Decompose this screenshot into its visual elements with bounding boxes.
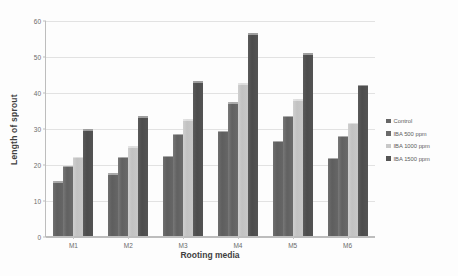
x-axis-tick-label: M4 xyxy=(233,242,242,249)
bar[interactable] xyxy=(108,173,118,236)
bar[interactable] xyxy=(273,141,283,236)
bar-group-m5: M5 xyxy=(273,21,313,236)
bar[interactable] xyxy=(128,146,138,236)
legend-item[interactable]: IBA 1000 ppm xyxy=(386,143,430,149)
bar[interactable] xyxy=(138,116,148,236)
legend-swatch-icon xyxy=(386,144,391,149)
bar[interactable] xyxy=(248,33,258,236)
legend-item[interactable]: IBA 500 ppm xyxy=(386,131,430,137)
legend-item[interactable]: Control xyxy=(386,118,430,124)
bar-group-m4: M4 xyxy=(218,21,258,236)
bar-group-m3: M3 xyxy=(163,21,203,236)
bar[interactable] xyxy=(358,85,368,236)
bar[interactable] xyxy=(173,134,183,236)
bar[interactable] xyxy=(328,158,338,236)
legend-swatch-icon xyxy=(386,119,391,124)
legend-swatch-icon xyxy=(386,131,391,136)
x-axis-tick-label: M5 xyxy=(288,242,297,249)
bar[interactable] xyxy=(118,157,128,236)
x-axis-tick-label: M6 xyxy=(343,242,352,249)
x-axis-tick-mark xyxy=(348,236,349,239)
gridline xyxy=(46,237,375,238)
bar[interactable] xyxy=(218,131,228,236)
bar[interactable] xyxy=(63,166,73,236)
chart-legend: ControlIBA 500 ppmIBA 1000 ppmIBA 1500 p… xyxy=(386,118,430,162)
x-axis-tick-label: M2 xyxy=(124,242,133,249)
legend-item[interactable]: IBA 1500 ppm xyxy=(386,156,430,162)
bar-group-m6: M6 xyxy=(328,21,368,236)
legend-swatch-icon xyxy=(386,156,391,161)
bar[interactable] xyxy=(228,102,238,236)
legend-label: IBA 1500 ppm xyxy=(394,156,430,162)
x-axis-title: Rooting media xyxy=(45,250,375,260)
bar[interactable] xyxy=(53,181,63,236)
bar-chart: Length of sprout 0102030405060 M1M2M3M4M… xyxy=(0,0,458,276)
bar-group-m2: M2 xyxy=(108,21,148,236)
x-axis-tick-mark xyxy=(128,236,129,239)
bar[interactable] xyxy=(338,136,348,236)
bar[interactable] xyxy=(348,123,358,236)
legend-label: IBA 500 ppm xyxy=(394,131,427,137)
x-axis-tick-mark xyxy=(293,236,294,239)
bar-group-m1: M1 xyxy=(53,21,93,236)
x-axis-tick-mark xyxy=(73,236,74,239)
bar[interactable] xyxy=(293,99,303,236)
bar[interactable] xyxy=(193,81,203,236)
bar[interactable] xyxy=(303,53,313,236)
bar[interactable] xyxy=(163,156,173,236)
plot-area: 0102030405060 M1M2M3M4M5M6 xyxy=(45,21,375,237)
bar[interactable] xyxy=(238,83,248,236)
legend-label: IBA 1000 ppm xyxy=(394,143,430,149)
bar[interactable] xyxy=(83,129,93,236)
y-axis-title: Length of sprout xyxy=(6,60,22,200)
x-axis-tick-label: M1 xyxy=(69,242,78,249)
bar-groups: M1M2M3M4M5M6 xyxy=(46,21,375,236)
x-axis-tick-label: M3 xyxy=(179,242,188,249)
y-axis-tick-mark xyxy=(43,237,46,238)
legend-label: Control xyxy=(394,118,413,124)
x-axis-tick-mark xyxy=(238,236,239,239)
bar[interactable] xyxy=(73,157,83,236)
x-axis-tick-mark xyxy=(183,236,184,239)
bar[interactable] xyxy=(183,119,193,236)
bar[interactable] xyxy=(283,116,293,236)
